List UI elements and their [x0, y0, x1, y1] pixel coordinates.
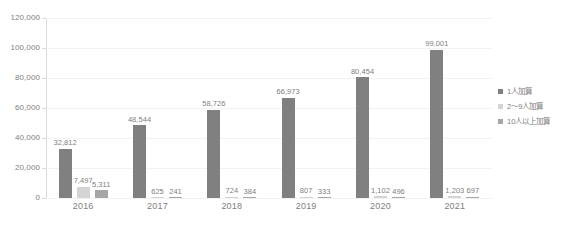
bar-2018-series3[interactable]: [243, 197, 256, 198]
bar-group: 32,8127,4975,311: [59, 18, 108, 198]
bar-2021-series2[interactable]: [448, 196, 461, 198]
bar-2017-series1[interactable]: [133, 125, 146, 198]
bar-2016-series1[interactable]: [59, 149, 72, 198]
bar-value-label: 625: [151, 188, 164, 196]
bar-value-label: 58,726: [202, 100, 225, 108]
y-axis-tick: [42, 18, 46, 19]
legend-item-label: 1人加算: [507, 88, 532, 96]
legend-swatch-icon: [498, 119, 503, 124]
x-axis-category-label: 2018: [195, 202, 269, 211]
bar-value-label: 7,497: [74, 177, 93, 185]
gridline: 20,000: [46, 168, 492, 169]
y-axis-tick-label: 0: [35, 194, 40, 202]
bar-2018-series1[interactable]: [207, 110, 220, 198]
bar-group: 80,4541,102496: [356, 18, 405, 198]
bar-value-label: 496: [392, 188, 405, 196]
legend-swatch-icon: [498, 89, 503, 94]
y-axis-tick: [42, 168, 46, 169]
y-axis-tick: [42, 198, 46, 199]
gridline: 100,000: [46, 48, 492, 49]
bar-group: 48,544625241: [133, 18, 182, 198]
bar-2019-series3[interactable]: [318, 197, 331, 198]
y-axis-tick-label: 120,000: [10, 14, 40, 22]
bar-value-label: 32,812: [54, 139, 77, 147]
bar-value-label: 1,203: [445, 187, 464, 195]
bar-2016-series2[interactable]: [77, 187, 90, 198]
bar-2021-series3[interactable]: [466, 197, 479, 198]
gridline: 60,000: [46, 108, 492, 109]
y-axis-tick-label: 20,000: [15, 164, 40, 172]
bar-2021-series1[interactable]: [430, 50, 443, 199]
bar-group: 66,973807333: [282, 18, 331, 198]
x-axis-category-label: 2021: [418, 202, 492, 211]
gridline: 120,000: [46, 18, 492, 19]
legend-item-2[interactable]: 2～9人加算: [498, 99, 550, 114]
y-axis-tick-label: 100,000: [10, 44, 40, 52]
legend-swatch-icon: [498, 104, 503, 109]
bar-2020-series2[interactable]: [374, 196, 387, 198]
bar-2019-series2[interactable]: [300, 197, 313, 198]
gridline: 0: [46, 198, 492, 199]
bar-value-label: 48,544: [128, 116, 151, 124]
y-axis-tick-label: 60,000: [15, 104, 40, 112]
legend-item-label: 2～9人加算: [507, 103, 543, 111]
legend-item-label: 10人以上加算: [507, 118, 550, 126]
bar-2017-series2[interactable]: [151, 197, 164, 198]
bar-value-label: 384: [243, 188, 256, 196]
y-axis-tick-label: 40,000: [15, 134, 40, 142]
bar-2016-series3[interactable]: [95, 190, 108, 198]
gridline: 40,000: [46, 138, 492, 139]
x-axis-category-label: 2019: [269, 202, 343, 211]
x-axis-category-label: 2017: [120, 202, 194, 211]
bar-value-label: 807: [300, 187, 313, 195]
y-axis-tick-label: 80,000: [15, 74, 40, 82]
bar-value-label: 99,001: [425, 40, 448, 48]
bar-value-label: 697: [466, 187, 479, 195]
bar-value-label: 724: [225, 187, 238, 195]
bar-value-label: 333: [318, 188, 331, 196]
legend-item-1[interactable]: 1人加算: [498, 84, 550, 99]
y-axis-tick: [42, 138, 46, 139]
bar-value-label: 241: [169, 188, 182, 196]
bar-2019-series1[interactable]: [282, 98, 295, 198]
bar-value-label: 66,973: [277, 88, 300, 96]
y-axis-tick: [42, 48, 46, 49]
bar-2017-series3[interactable]: [169, 197, 182, 198]
bar-value-label: 1,102: [371, 187, 390, 195]
y-axis-tick: [42, 108, 46, 109]
x-axis-category-label: 2020: [343, 202, 417, 211]
x-axis-category-label: 2016: [46, 202, 120, 211]
bar-value-label: 5,311: [92, 181, 110, 189]
bar-group: 99,0011,203697: [430, 18, 479, 198]
bar-value-label: 80,454: [351, 68, 374, 76]
gridline: 80,000: [46, 78, 492, 79]
chart-legend: 1人加算2～9人加算10人以上加算: [498, 84, 550, 129]
bar-2020-series1[interactable]: [356, 77, 369, 198]
plot-area: 020,00040,00060,00080,000100,000120,0003…: [46, 18, 492, 198]
y-axis-tick: [42, 78, 46, 79]
bar-2018-series2[interactable]: [225, 197, 238, 198]
bar-chart: 020,00040,00060,00080,000100,000120,0003…: [0, 0, 564, 225]
bar-group: 58,726724384: [207, 18, 256, 198]
bar-2020-series3[interactable]: [392, 197, 405, 198]
legend-item-3[interactable]: 10人以上加算: [498, 114, 550, 129]
